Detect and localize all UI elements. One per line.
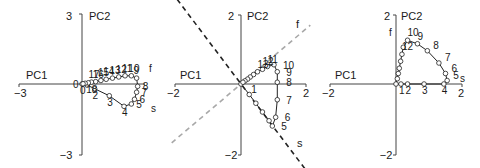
point-label: 0 <box>80 85 86 96</box>
panel-3-ylabel: PC2 <box>401 10 422 22</box>
panel-2-s-label: s <box>297 137 303 149</box>
panel-1-xmin-label: −3 <box>14 87 27 99</box>
panel-3: 2 PC2 PC1 −2 2 −2 f s 1234567891012 <box>322 10 465 161</box>
data-point <box>400 52 405 57</box>
data-point <box>443 71 448 76</box>
point-label: 4 <box>442 85 448 96</box>
point-label: 7 <box>445 52 451 63</box>
data-point <box>254 101 259 106</box>
data-point <box>396 71 401 76</box>
point-label: 1 <box>399 85 405 96</box>
point-label: 4 <box>122 107 128 118</box>
point-label: 12 <box>402 41 414 52</box>
point-label: 10 <box>408 27 420 38</box>
panel-3-f-label: f <box>389 27 392 38</box>
point-label: 3 <box>422 85 428 96</box>
panel-1-s-label: s <box>151 103 156 114</box>
data-point <box>134 76 139 81</box>
panel-3-xmax-label: 2 <box>458 87 464 99</box>
panel-1-ymax-label: 3 <box>66 10 72 22</box>
data-point <box>275 69 280 74</box>
panel-1: 3 PC2 PC1 −3 −3 0 f s 023456789101112131… <box>14 10 156 161</box>
panel-3-ymin-label: −2 <box>380 149 393 161</box>
point-label: 10 <box>283 60 295 71</box>
data-point <box>275 80 280 85</box>
data-point <box>394 82 399 87</box>
panel-2-f-label: f <box>296 18 300 30</box>
data-point <box>397 66 402 71</box>
data-point <box>445 78 450 83</box>
point-label: 18 <box>86 84 98 95</box>
panel-1-origin-label: 0 <box>73 79 79 90</box>
panel-3-ymax-label: 2 <box>384 10 390 22</box>
point-label: 8 <box>433 40 439 51</box>
data-point <box>267 118 272 123</box>
data-point <box>437 61 442 66</box>
point-label: 2 <box>406 85 412 96</box>
panel-2-ylabel: PC2 <box>247 10 268 22</box>
data-point <box>260 110 265 115</box>
panel-3-s-label: s <box>460 73 465 84</box>
data-point <box>415 41 420 46</box>
panel-1-ymin-label: −3 <box>60 149 73 161</box>
point-label: 8 <box>286 77 292 88</box>
data-point <box>135 84 140 89</box>
panel-1-xlabel: PC1 <box>26 69 47 81</box>
point-label: 7 <box>286 95 292 106</box>
data-point <box>270 124 275 129</box>
panel-2-ymax-label: 2 <box>228 10 234 22</box>
point-label: 17 <box>88 69 100 80</box>
data-point <box>273 115 278 120</box>
data-point <box>241 80 246 85</box>
point-label: 13 <box>258 59 270 70</box>
data-point <box>275 97 280 102</box>
point-label: 1 <box>251 84 257 95</box>
point-label: 3 <box>107 97 113 108</box>
data-point <box>425 48 430 53</box>
panel-1-f-label: f <box>149 63 152 74</box>
point-label: 6 <box>452 63 458 74</box>
panel-2-xmin-label: −2 <box>167 87 180 99</box>
point-label: 6 <box>285 112 291 123</box>
panel-3-xmin-label: −2 <box>322 87 335 99</box>
panel-2-xlabel: PC1 <box>180 69 201 81</box>
panel-2-ymin-label: −2 <box>225 149 238 161</box>
data-point <box>134 90 139 95</box>
panel-1-ylabel: PC2 <box>89 10 110 22</box>
data-point <box>395 76 400 81</box>
pca-trajectory-figure: 3 PC2 PC1 −3 −3 0 f s 023456789101112131… <box>0 0 480 168</box>
trajectory-line <box>241 65 277 126</box>
point-label: 8 <box>143 81 149 92</box>
data-point <box>398 59 403 64</box>
panel-3-xlabel: PC1 <box>335 69 356 81</box>
data-point <box>129 102 134 107</box>
panel-2: 2 PC2 PC1 −2 2 −2 f s 15678910111213 <box>167 0 310 168</box>
panel-2-xmax-label: 2 <box>303 87 309 99</box>
